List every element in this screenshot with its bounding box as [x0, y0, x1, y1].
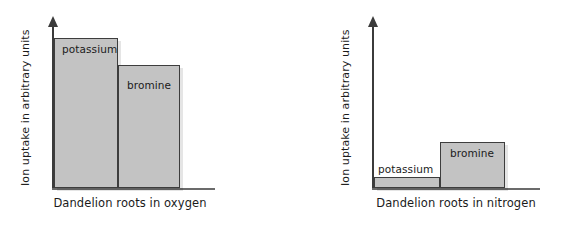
x-axis-title: Dandelion roots in oxygen: [20, 196, 240, 210]
bar-potassium: [374, 177, 440, 188]
bar-potassium: [54, 38, 118, 188]
y-axis-title: Ion uptake in arbitrary units: [339, 29, 352, 186]
dual-bar-chart-figure: potassium bromine Ion uptake in arbitrar…: [0, 0, 568, 228]
chart-panel-nitrogen: potassium bromine Ion uptake in arbitrar…: [284, 0, 568, 228]
bar-label-potassium: potassium: [62, 43, 117, 55]
x-axis-line: [52, 188, 215, 190]
y-axis-title: Ion uptake in arbitrary units: [19, 29, 32, 186]
x-axis-line: [372, 188, 540, 190]
y-axis-line: [372, 26, 374, 189]
x-axis-title: Dandelion roots in nitrogen: [342, 196, 568, 210]
bar-label-bromine: bromine: [127, 79, 171, 91]
bar-label-bromine: bromine: [450, 147, 494, 159]
chart-panel-oxygen: potassium bromine Ion uptake in arbitrar…: [0, 0, 284, 228]
bar-label-potassium: potassium: [378, 163, 433, 175]
